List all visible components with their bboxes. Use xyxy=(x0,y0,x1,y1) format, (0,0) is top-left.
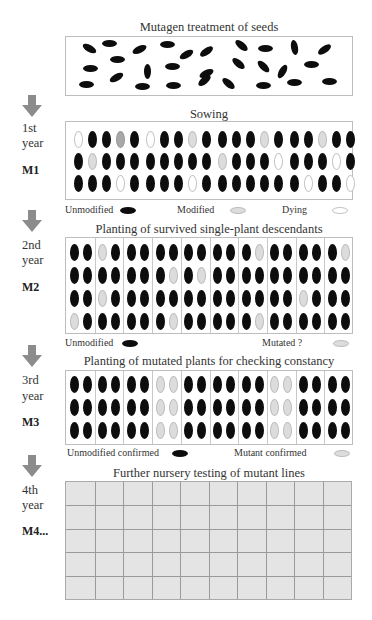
seed xyxy=(184,399,193,416)
seed xyxy=(226,313,235,330)
seed xyxy=(70,376,79,393)
seed xyxy=(260,131,269,148)
seed xyxy=(98,244,107,261)
grid-line xyxy=(323,482,324,599)
seed xyxy=(255,244,264,261)
seed xyxy=(111,244,120,261)
seed xyxy=(213,244,222,261)
seed xyxy=(270,399,279,416)
legend-unmodified-label: Unmodified xyxy=(65,204,113,215)
seed xyxy=(341,290,350,307)
seed xyxy=(213,267,222,284)
seed xyxy=(289,39,298,55)
m2-generation-label: M2 xyxy=(22,280,39,295)
legend-unmodified-confirmed-swatch xyxy=(172,450,188,457)
seed xyxy=(290,153,299,170)
seed xyxy=(312,244,321,261)
seed xyxy=(184,422,193,439)
seed xyxy=(346,153,355,170)
grid-line xyxy=(237,482,238,599)
column-divider xyxy=(210,371,211,444)
legend-mutant-confirmed-swatch xyxy=(334,450,350,457)
seed xyxy=(184,313,193,330)
mutagen-seed-box xyxy=(65,36,353,96)
legend-unmodified-confirmed-label: Unmodified confirmed xyxy=(67,447,159,458)
legend-dying-swatch xyxy=(332,207,348,214)
seed xyxy=(146,131,155,148)
seed xyxy=(255,399,264,416)
seed xyxy=(70,244,79,261)
seed xyxy=(144,64,151,79)
seed xyxy=(197,267,206,284)
seed xyxy=(328,290,337,307)
seed xyxy=(160,41,175,48)
seed xyxy=(232,175,241,192)
down-arrow-icon xyxy=(22,210,42,232)
seed xyxy=(83,244,92,261)
seed xyxy=(165,63,180,70)
seed xyxy=(184,290,193,307)
seed xyxy=(83,313,92,330)
grid-line xyxy=(123,482,124,599)
seed xyxy=(102,175,111,192)
seed xyxy=(328,267,337,284)
seed xyxy=(70,290,79,307)
seed xyxy=(260,153,269,170)
seed xyxy=(274,175,283,192)
seed xyxy=(213,399,222,416)
down-arrow-icon xyxy=(22,345,42,367)
column-divider xyxy=(238,371,239,444)
seed xyxy=(283,422,292,439)
seed xyxy=(188,175,197,192)
seed xyxy=(127,399,136,416)
seed xyxy=(270,376,279,393)
seed xyxy=(332,153,341,170)
m1-year-word: year xyxy=(22,136,44,150)
seed xyxy=(246,131,255,148)
seed xyxy=(140,244,149,261)
column-divider xyxy=(123,238,124,333)
seed xyxy=(287,79,302,86)
seed xyxy=(341,376,350,393)
seed xyxy=(299,244,308,261)
seed xyxy=(202,131,211,148)
seed xyxy=(98,376,107,393)
m2-year-number: 2nd xyxy=(22,238,41,252)
seed xyxy=(174,131,183,148)
seed xyxy=(174,153,183,170)
m4-nursery-grid xyxy=(65,481,352,600)
seed xyxy=(160,131,169,148)
column-divider xyxy=(267,238,268,333)
seed xyxy=(341,244,350,261)
seed xyxy=(111,290,120,307)
legend-unmodified-swatch xyxy=(120,207,136,214)
seed xyxy=(184,244,193,261)
seed xyxy=(299,267,308,284)
seed xyxy=(197,422,206,439)
seed xyxy=(341,313,350,330)
seed xyxy=(83,267,92,284)
seed xyxy=(146,175,155,192)
seed xyxy=(166,82,181,89)
grid-line xyxy=(66,576,351,577)
seed xyxy=(202,153,211,170)
m4-title: Further nursery testing of mutant lines xyxy=(65,466,353,480)
seed xyxy=(111,422,120,439)
seed xyxy=(156,267,165,284)
seed xyxy=(299,422,308,439)
grid-line xyxy=(294,482,295,599)
seed xyxy=(156,290,165,307)
seed xyxy=(127,290,136,307)
m1-title: Sowing xyxy=(65,107,353,121)
column-divider xyxy=(123,371,124,444)
seed xyxy=(304,175,313,192)
seed xyxy=(255,422,264,439)
column-divider xyxy=(296,371,297,444)
seed xyxy=(111,399,120,416)
seed xyxy=(290,131,299,148)
column-divider xyxy=(267,371,268,444)
seed xyxy=(98,422,107,439)
column-divider xyxy=(152,238,153,333)
seed xyxy=(127,244,136,261)
seed xyxy=(160,153,169,170)
